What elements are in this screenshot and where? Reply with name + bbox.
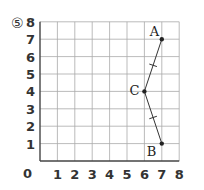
y-tick-label: 4 xyxy=(26,84,35,99)
x-tick-label: 7 xyxy=(157,167,166,182)
x-tick-label: 4 xyxy=(105,167,114,182)
coordinate-grid-diagram: 12345678123456780 ACB ⑤ xyxy=(0,0,204,190)
x-tick-label: 8 xyxy=(175,167,184,182)
x-tick-label: 6 xyxy=(140,167,149,182)
x-tick-label: 3 xyxy=(88,167,97,182)
point-label-C: C xyxy=(129,83,139,98)
y-tick-label: 7 xyxy=(26,32,35,47)
y-tick-label: 1 xyxy=(26,137,35,152)
y-tick-label: 8 xyxy=(26,15,35,30)
x-tick-label: 1 xyxy=(53,167,62,182)
point-B xyxy=(160,141,164,145)
point-label-A: A xyxy=(149,24,160,39)
y-tick-label: 3 xyxy=(26,102,35,117)
point-label-B: B xyxy=(147,144,157,159)
x-tick-label: 5 xyxy=(122,167,131,182)
y-tick-label: 5 xyxy=(26,67,35,82)
x-tick-label: 2 xyxy=(70,167,79,182)
y-tick-label: 2 xyxy=(26,119,35,134)
grid-lines xyxy=(40,22,179,161)
point-C xyxy=(142,89,146,93)
problem-number-label: ⑤ xyxy=(11,15,24,31)
point-A xyxy=(160,37,164,41)
origin-label: 0 xyxy=(23,166,32,181)
tick-labels: 12345678123456780 xyxy=(23,15,184,182)
y-tick-label: 6 xyxy=(26,50,35,65)
